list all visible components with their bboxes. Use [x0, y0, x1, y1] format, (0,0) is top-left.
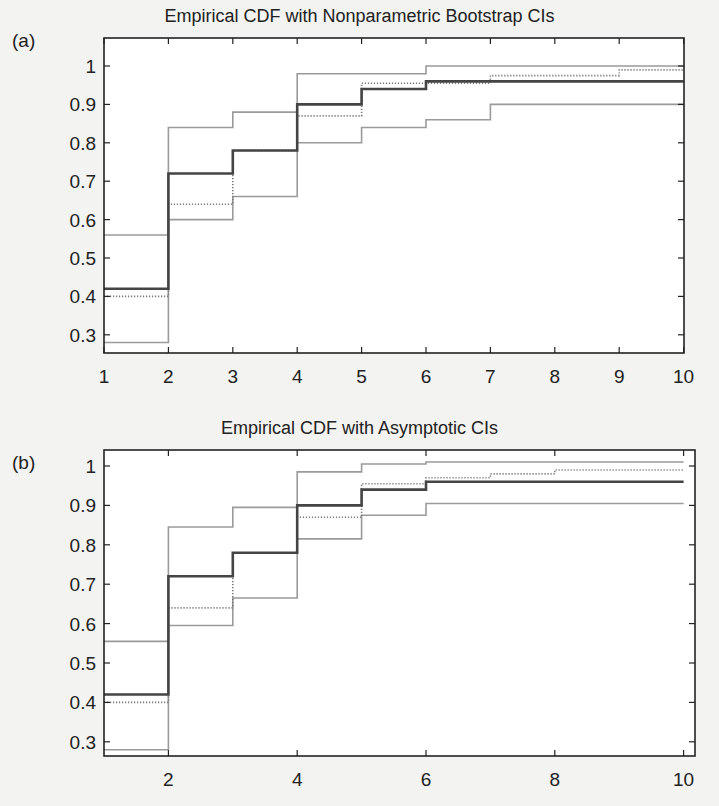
x-tick-label: 2: [163, 769, 174, 790]
y-tick-label: 0.4: [70, 692, 97, 713]
y-tick-label: 0.8: [70, 535, 96, 556]
figure: Empirical CDF with Nonparametric Bootstr…: [0, 0, 719, 806]
y-tick-label: 0.9: [70, 495, 96, 516]
y-tick-label: 0.6: [70, 614, 96, 635]
x-tick-label: 8: [550, 769, 561, 790]
x-tick-label: 4: [292, 769, 303, 790]
y-tick-label: 0.3: [70, 732, 96, 753]
y-tick-label: 1: [85, 456, 96, 477]
y-tick-label: 0.5: [70, 653, 96, 674]
y-tick-label: 0.7: [70, 574, 96, 595]
plot-b: 0.30.40.50.60.70.80.91246810: [0, 0, 719, 806]
x-tick-label: 10: [673, 769, 694, 790]
plot-area: [104, 450, 695, 756]
x-tick-label: 6: [421, 769, 432, 790]
